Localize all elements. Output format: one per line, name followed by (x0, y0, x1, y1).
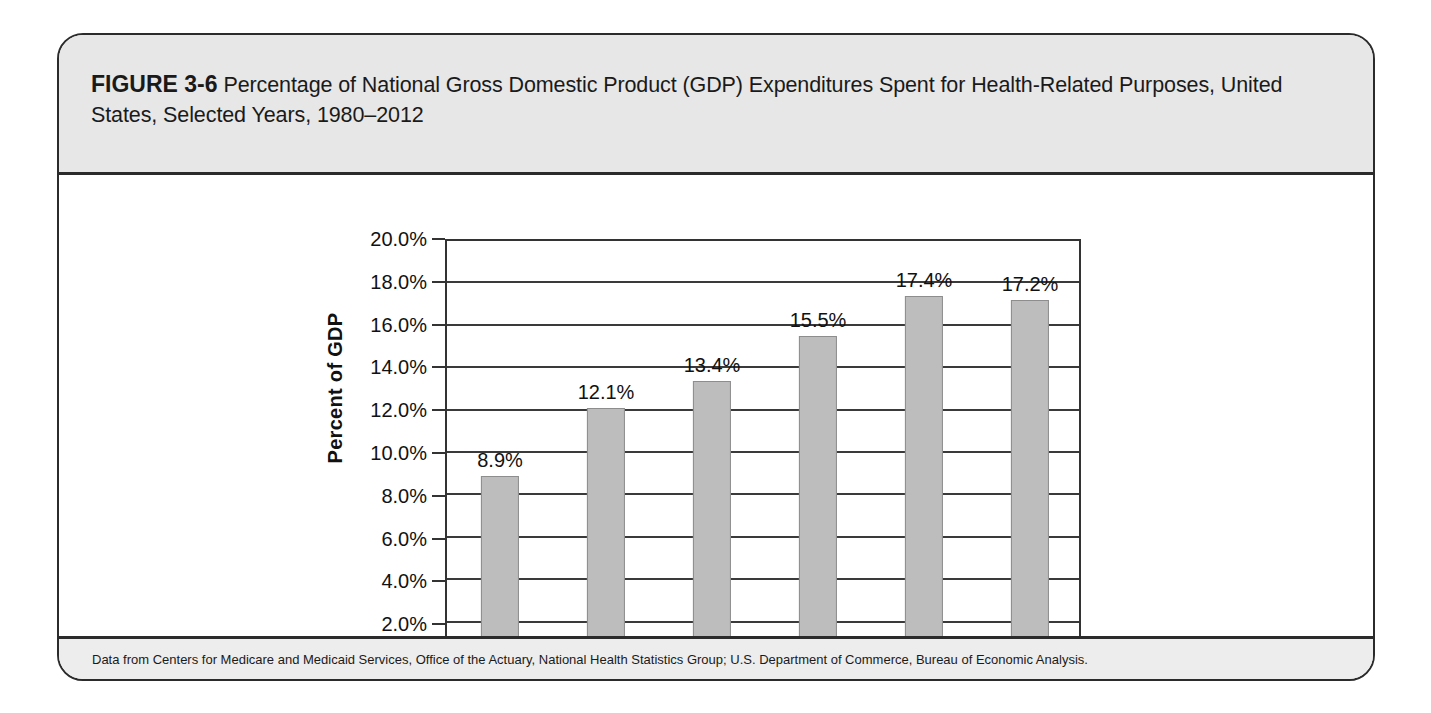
y-axis-tick (432, 452, 445, 454)
y-axis-tick (432, 324, 445, 326)
y-axis-tick (432, 580, 445, 582)
figure-caption: FIGURE 3-6 Percentage of National Gross … (91, 69, 1343, 130)
bar[interactable] (1011, 300, 1049, 665)
y-axis-tick-label: 10.0% (370, 442, 427, 465)
y-axis-tick (432, 238, 445, 240)
bar-value-label: 12.1% (578, 381, 635, 404)
chart-area: Percent of GDP 20.0%18.0%16.0%14.0%12.0%… (59, 175, 1373, 636)
y-axis-tick-label: 8.0% (381, 484, 427, 507)
y-axis-tick-label: 12.0% (370, 399, 427, 422)
plot-frame: 8.9%12.1%13.4%15.5%17.4%17.2% (445, 239, 1081, 667)
figure-source: Data from Centers for Medicare and Medic… (92, 652, 1088, 667)
y-axis-tick (432, 623, 445, 625)
y-axis-tick-labels: 20.0%18.0%16.0%14.0%12.0%10.0%8.0%6.0%4.… (59, 239, 445, 667)
figure-caption-text: Percentage of National Gross Domestic Pr… (91, 73, 1282, 127)
bar-slot: 8.9% (447, 241, 553, 665)
bar[interactable] (905, 296, 943, 665)
y-axis-tick-label: 16.0% (370, 313, 427, 336)
bar[interactable] (799, 336, 837, 665)
bar-slot: 17.4% (871, 241, 977, 665)
bar-slot: 15.5% (765, 241, 871, 665)
bar-value-label: 15.5% (790, 309, 847, 332)
bar[interactable] (693, 381, 731, 665)
bar-value-label: 17.4% (896, 269, 953, 292)
y-axis-tick (432, 495, 445, 497)
bar[interactable] (587, 408, 625, 665)
figure-source-band: Data from Centers for Medicare and Medic… (59, 636, 1373, 679)
bars-layer: 8.9%12.1%13.4%15.5%17.4%17.2% (447, 241, 1079, 665)
y-axis-tick (432, 366, 445, 368)
y-axis-tick (432, 538, 445, 540)
bar-slot: 17.2% (977, 241, 1083, 665)
y-axis-tick-label: 6.0% (381, 527, 427, 550)
figure-number: FIGURE 3-6 (91, 71, 218, 97)
bar-slot: 12.1% (553, 241, 659, 665)
y-axis-tick (432, 409, 445, 411)
y-axis-tick-label: 4.0% (381, 570, 427, 593)
y-axis-tick-label: 20.0% (370, 228, 427, 251)
bar-slot: 13.4% (659, 241, 765, 665)
y-axis-tick-label: 14.0% (370, 356, 427, 379)
y-axis-tick-label: 2.0% (381, 613, 427, 636)
figure-caption-band: FIGURE 3-6 Percentage of National Gross … (59, 35, 1373, 175)
bar-value-label: 13.4% (684, 354, 741, 377)
y-axis-tick-label: 18.0% (370, 270, 427, 293)
y-axis-tick (432, 281, 445, 283)
bar-value-label: 17.2% (1002, 273, 1059, 296)
bar-value-label: 8.9% (477, 449, 523, 472)
figure-container: FIGURE 3-6 Percentage of National Gross … (57, 33, 1375, 681)
